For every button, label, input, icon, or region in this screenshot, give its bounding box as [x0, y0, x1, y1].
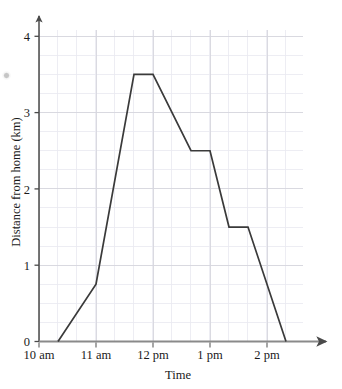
x-tick-label: 12 pm [137, 348, 169, 362]
grid-minor-vertical [39, 30, 286, 342]
x-axis-title: Time [165, 368, 191, 382]
y-tick-label: 1 [24, 259, 30, 273]
y-tick-label: 3 [24, 106, 30, 120]
y-tick-label: 2 [24, 183, 30, 197]
grid-major-vertical [39, 30, 267, 342]
y-axis-title: Distance from home (km) [9, 117, 23, 246]
y-tick-label: 0 [24, 335, 30, 349]
x-tick-label: 11 am [81, 348, 112, 362]
x-tick-label: 2 pm [254, 348, 280, 362]
x-axis-tick-labels: 10 am11 am12 pm1 pm2 pm [24, 348, 280, 362]
x-axis-ticks [39, 343, 267, 348]
y-axis-tick-labels: 01234 [24, 30, 31, 349]
chart-canvas: 01234 10 am11 am12 pm1 pm2 pm Time Dista… [0, 0, 342, 389]
x-tick-label: 1 pm [197, 348, 223, 362]
x-tick-label: 10 am [24, 348, 55, 362]
y-tick-label: 4 [24, 30, 31, 44]
distance-time-chart: 01234 10 am11 am12 pm1 pm2 pm Time Dista… [0, 0, 342, 389]
